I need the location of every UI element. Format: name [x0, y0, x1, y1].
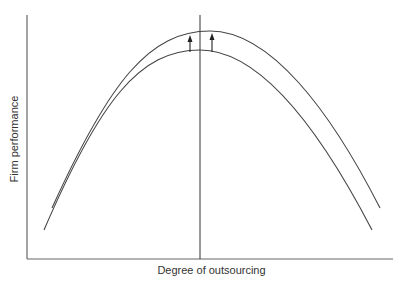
arrow-up-icon [210, 33, 215, 52]
upper-curve [52, 31, 380, 208]
arrow-up-icon [188, 35, 193, 52]
lower-curve [44, 50, 372, 230]
y-axis-label: Firm performance [8, 89, 20, 189]
outsourcing-performance-diagram [0, 0, 405, 288]
x-axis-label: Degree of outsourcing [0, 264, 405, 276]
